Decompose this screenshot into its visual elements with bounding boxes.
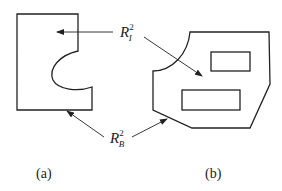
shape-b-outline: [153, 32, 270, 128]
interior-arrow-b: [144, 37, 202, 76]
boundary-arrow-b: [132, 119, 167, 137]
boundary-arrow-a: [67, 111, 104, 137]
region-diagram: R2I R2B (a) (b): [0, 0, 282, 191]
caption-a: (a): [36, 166, 52, 182]
caption-b: (b): [205, 166, 222, 182]
interior-region-label: R2I: [119, 22, 134, 43]
shape-b-hole-lower: [182, 90, 240, 110]
boundary-region-label: R2B: [109, 128, 125, 149]
shape-b-hole-upper: [211, 52, 250, 71]
shape-a-outline: [17, 14, 92, 110]
